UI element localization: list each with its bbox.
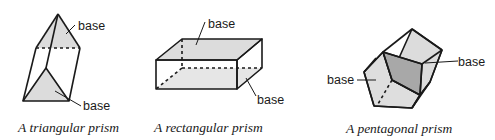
pentagonal-prism [357, 29, 458, 108]
label-base-left: base [327, 73, 354, 87]
label-base-bottom: base [83, 99, 110, 113]
label-base-top: base [78, 19, 105, 33]
label-base-top: base [208, 17, 235, 31]
top-base-rectangle [156, 39, 262, 60]
label-base-right: base [458, 55, 485, 69]
prisms-diagram: base base A triangular prism base base A… [0, 0, 495, 140]
rectangular-prism [156, 22, 262, 96]
caption-triangular: A triangular prism [17, 120, 119, 135]
label-base-bottom: base [257, 93, 284, 107]
triangular-prism [23, 14, 81, 106]
top-base-triangle [36, 14, 80, 48]
caption-rectangular: A rectangular prism [153, 120, 263, 135]
caption-pentagonal: A pentagonal prism [345, 121, 453, 136]
